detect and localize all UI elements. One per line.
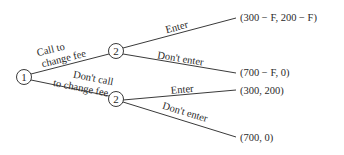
- edge-label-lower-dont-enter: Don't enter: [161, 100, 209, 124]
- node-label: 2: [113, 93, 119, 105]
- node-label: 1: [21, 71, 27, 83]
- payoff-upper-dont-enter: (700 − F, 0): [240, 67, 290, 79]
- edge-label-upper-enter: Enter: [164, 19, 189, 36]
- game-tree-diagram: 1 2 2 Call to change fee Don't call to c…: [0, 0, 344, 155]
- node-player-2-lower: 2: [109, 92, 124, 107]
- node-player-2-upper: 2: [109, 44, 124, 59]
- node-label: 2: [113, 45, 119, 57]
- node-player-1: 1: [17, 70, 32, 85]
- edge-label-lower-enter: Enter: [170, 83, 194, 96]
- payoff-upper-enter: (300 − F, 200 − F): [240, 12, 317, 24]
- payoff-lower-enter: (300, 200): [240, 85, 284, 97]
- payoff-lower-dont-enter: (700, 0): [240, 132, 274, 144]
- edge-label-upper-dont-enter: Don't enter: [157, 49, 205, 67]
